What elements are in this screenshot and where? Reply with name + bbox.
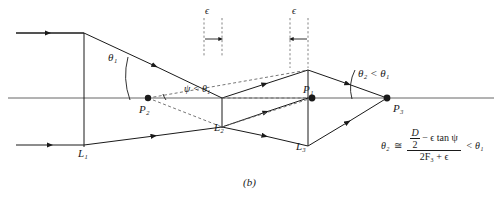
label-theta2-relation: θ₂ < θ₁ (358, 68, 389, 79)
angle-arc-theta1 (126, 57, 130, 100)
ray-L1-to-L2-lower (84, 127, 222, 145)
ray-L2-up-to-L3-top (222, 70, 308, 98)
angle-arc-theta2 (351, 70, 355, 99)
equation-numerator-rest: − ϵ tan ψ (422, 132, 458, 143)
label-point-P1: P₁ (303, 84, 314, 95)
point-dot-P3 (384, 95, 391, 102)
equation-numerator-first: D (410, 127, 419, 138)
ray-diagram-svg (0, 0, 502, 200)
ray-L3-to-P3-lower (308, 98, 387, 146)
label-point-P3: P₃ (393, 103, 404, 114)
label-point-P2: P₂ (139, 104, 150, 115)
equation-numerator: D 2 − ϵ tan ψ (407, 127, 460, 150)
label-psi-relation: ψ < θ₁ (184, 84, 210, 94)
equation-numerator-second: 2 (412, 139, 419, 150)
dashed-P2-to-L2-lower (148, 98, 222, 127)
equation-lhs: θ₂ (381, 140, 389, 151)
equation-fraction: D 2 − ϵ tan ψ 2F₃ + ϵ (407, 127, 460, 164)
theta2-equation: θ₂ ≅ D 2 − ϵ tan ψ 2F₃ + ϵ < θ₁ (381, 127, 483, 164)
optics-figure: θ₁ θ₂ < θ₁ ψ < θ₁ ϵ ϵ L₁ L₂ L₃ P₁ P₂ P₃ … (0, 0, 502, 200)
point-dot-P2 (145, 95, 151, 101)
label-epsilon-right: ϵ (292, 6, 296, 16)
label-lens-L2: L₂ (214, 122, 224, 133)
equation-denominator: 2F₃ + ϵ (417, 151, 452, 164)
point-dot-P1 (309, 95, 316, 102)
equation-numerator-inner-fraction: D 2 (410, 127, 419, 150)
figure-caption: (b) (243, 177, 256, 188)
equation-relation: ≅ (394, 140, 402, 151)
label-theta1: θ₁ (108, 52, 117, 63)
label-lens-L3: L₃ (296, 141, 306, 152)
label-lens-L1: L₁ (78, 148, 88, 159)
label-epsilon-left: ϵ (205, 6, 209, 16)
equation-tail: < θ₁ (466, 140, 484, 151)
